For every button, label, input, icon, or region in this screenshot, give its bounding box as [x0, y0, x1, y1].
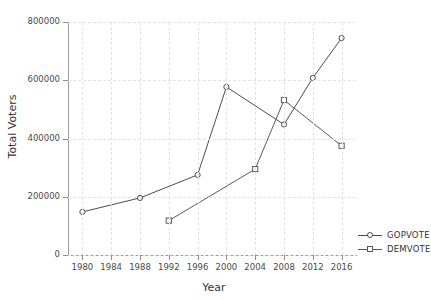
y-tick-label: 200000: [4, 192, 60, 201]
x-tick-mark: [82, 255, 83, 260]
series-line: [82, 38, 341, 212]
gridline-vertical: [226, 22, 228, 255]
gridline-vertical: [111, 22, 113, 255]
gridline-vertical: [140, 22, 142, 255]
x-tick-label: 2016: [319, 262, 365, 272]
legend-item-label: DEMVOTE: [387, 244, 431, 254]
x-tick-mark: [226, 255, 227, 260]
gridline-vertical: [342, 22, 344, 255]
gridline-vertical: [313, 22, 315, 255]
chart-legend: GOPVOTEDEMVOTE: [358, 228, 431, 256]
x-tick-mark: [284, 255, 285, 260]
gridline-vertical: [82, 22, 84, 255]
y-tick-mark: [63, 197, 68, 198]
x-axis-title: Year: [0, 281, 428, 294]
legend-item-demvote[interactable]: DEMVOTE: [358, 242, 431, 256]
y-tick-label: 0: [4, 250, 60, 259]
gridline-vertical: [284, 22, 286, 255]
y-tick-mark: [63, 139, 68, 140]
x-tick-mark: [313, 255, 314, 260]
x-tick-mark: [255, 255, 256, 260]
legend-key-icon: [358, 230, 382, 240]
legend-key-icon: [358, 244, 382, 254]
y-tick-mark: [63, 22, 68, 23]
legend-item-label: GOPVOTE: [387, 230, 430, 240]
y-tick-mark: [63, 80, 68, 81]
gridline-vertical: [198, 22, 200, 255]
x-tick-mark: [169, 255, 170, 260]
y-tick-label: 800000: [4, 17, 60, 26]
x-tick-mark: [111, 255, 112, 260]
x-tick-mark: [342, 255, 343, 260]
legend-item-gopvote[interactable]: GOPVOTE: [358, 228, 431, 242]
series-gopvote: [80, 35, 344, 214]
gridline-vertical: [169, 22, 171, 255]
gridline-vertical: [255, 22, 257, 255]
x-tick-mark: [140, 255, 141, 260]
y-axis-title: Total Voters: [6, 67, 19, 187]
y-tick-mark: [63, 255, 68, 256]
x-tick-mark: [198, 255, 199, 260]
